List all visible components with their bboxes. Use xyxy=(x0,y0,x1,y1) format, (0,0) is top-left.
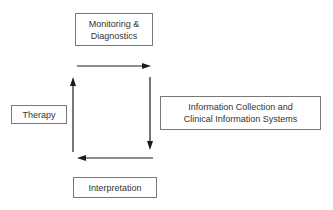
arrow-down-icon xyxy=(147,77,153,150)
cycle-arrows xyxy=(0,0,333,210)
arrow-up-icon xyxy=(70,77,76,152)
arrow-right-icon xyxy=(77,63,151,69)
arrow-left-icon xyxy=(77,155,153,161)
